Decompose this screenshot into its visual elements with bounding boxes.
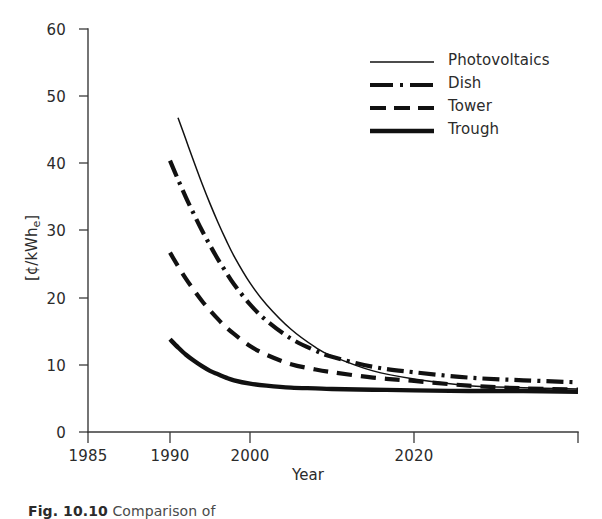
legend-label-photovoltaics: Photovoltaics: [448, 51, 550, 69]
y-tick-label-40: 40: [26, 155, 66, 173]
x-tick-label-1990: 1990: [135, 447, 205, 465]
x-axis-ticks: [88, 432, 578, 443]
figure-caption-text: Comparison of: [112, 503, 215, 519]
chart-legend: Photovoltaics Dish Tower Trough: [368, 50, 568, 142]
legend-item-trough: Trough: [368, 119, 568, 142]
figure-caption: Fig. 10.10 Comparison of: [28, 503, 216, 519]
figure-container: 60 50 40 30 20 10 0 1985 1990 2000 2020 …: [0, 0, 602, 519]
dash-dot-line-sample: [368, 73, 436, 96]
y-axis-title-subscript: e: [30, 221, 43, 228]
series-line-dish: [170, 161, 578, 383]
thin-solid-line-sample: [368, 50, 436, 73]
dashed-line-sample: [368, 96, 436, 119]
figure-caption-number: Fig. 10.10: [28, 503, 108, 519]
legend-item-dish: Dish: [368, 73, 568, 96]
series-group: [170, 118, 578, 392]
legend-label-tower: Tower: [448, 97, 492, 115]
y-axis-title: [¢/kWhe]: [23, 193, 43, 303]
legend-item-photovoltaics: Photovoltaics: [368, 50, 568, 73]
series-line-trough: [170, 339, 578, 391]
series-line-photovoltaics: [178, 118, 578, 389]
y-tick-label-50: 50: [26, 88, 66, 106]
y-axis-title-close: ]: [23, 215, 41, 221]
y-tick-label-10: 10: [26, 357, 66, 375]
x-tick-label-2020: 2020: [379, 447, 449, 465]
y-axis-title-main: [¢/kWh: [23, 228, 41, 281]
legend-label-dish: Dish: [448, 74, 481, 92]
series-line-tower: [170, 253, 578, 390]
thick-solid-line-sample: [368, 119, 436, 142]
x-tick-label-1985: 1985: [53, 447, 123, 465]
y-tick-label-0: 0: [26, 424, 66, 442]
y-tick-label-60: 60: [26, 21, 66, 39]
x-tick-label-2000: 2000: [215, 447, 285, 465]
legend-item-tower: Tower: [368, 96, 568, 119]
x-axis-title: Year: [268, 466, 348, 484]
y-axis-ticks: [79, 29, 88, 432]
legend-label-trough: Trough: [448, 120, 499, 138]
